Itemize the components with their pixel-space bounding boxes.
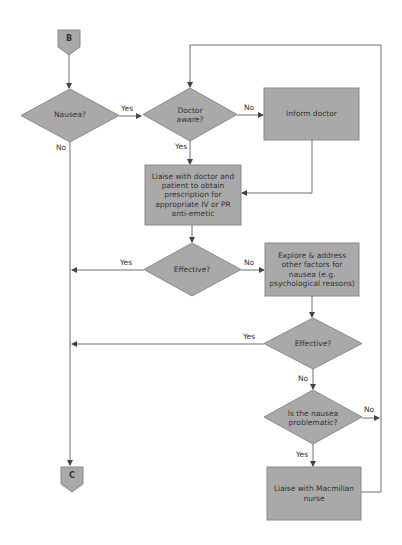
effective-1-decision: Effective? [162, 260, 222, 280]
liaise-macmillan-box: Liaise with Macmillan nurse [272, 467, 356, 520]
edge-label-problematic-yes: Yes [296, 450, 308, 459]
edge-label-nausea-no: No [56, 143, 66, 152]
edge-label-problematic-no: No [364, 405, 374, 414]
edge-label-nausea-yes: Yes [121, 104, 133, 113]
effective-2-decision: Effective? [283, 334, 343, 354]
inform-doctor-box: Inform doctor [264, 88, 359, 140]
connector-c-label: C [61, 468, 83, 484]
doctor-aware-decision: Doctor aware? [168, 103, 212, 127]
liaise-doctor-box: Liaise with doctor and patient to obtain… [148, 165, 238, 225]
edge-label-effective-2-no: No [298, 374, 308, 383]
edge-label-effective-2-yes: Yes [243, 332, 255, 341]
connector-b-label: B [58, 31, 80, 47]
edge-label-effective-1-no: No [244, 258, 254, 267]
edge-label-effective-1-yes: Yes [120, 258, 132, 267]
edge-label-doctor-aware-no: No [244, 103, 254, 112]
nausea-decision: Nausea? [35, 105, 105, 125]
edge-label-doctor-aware-yes: Yes [175, 142, 187, 151]
problematic-decision: Is the nausea problematic? [287, 401, 339, 435]
explore-box: Explore & address other factors for naus… [267, 243, 357, 296]
